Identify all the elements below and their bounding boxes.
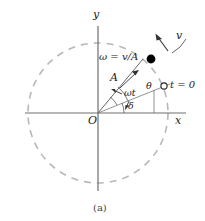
amplitude-label: A xyxy=(110,72,118,83)
angle-theta-label: θ xyxy=(146,81,152,91)
particle-marker xyxy=(147,55,156,64)
figure-caption: (a) xyxy=(93,203,107,213)
initial-time-label: t = 0 xyxy=(170,80,195,90)
diagram-canvas xyxy=(0,0,205,221)
radius-line-amplitude xyxy=(98,59,143,113)
x-axis-label: x xyxy=(175,115,181,126)
velocity-label: v xyxy=(176,30,182,41)
angle-omega-t-label: ωt xyxy=(124,88,136,98)
amplitude-leader-line xyxy=(120,72,137,88)
angular-frequency-label: ω = v/A xyxy=(99,52,138,62)
angle-delta-arc xyxy=(122,103,124,113)
origin-label: O xyxy=(88,115,97,126)
angle-delta-label: δ xyxy=(128,101,134,111)
initial-position-marker xyxy=(161,83,167,89)
velocity-vector-arrowhead xyxy=(156,34,163,41)
angle-omega-t-arc xyxy=(110,97,117,105)
circular-motion-figure: y x O ω = v/A A v θ ωt δ t = 0 (a) xyxy=(0,0,205,221)
y-axis-label: y xyxy=(93,9,99,20)
